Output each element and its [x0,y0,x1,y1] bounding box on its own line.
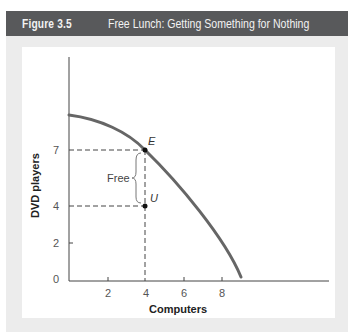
x-tick-2: 2 [105,287,111,299]
y-axis-title: DVD players [29,153,41,218]
point-u-label: U [150,192,158,204]
y-tick-7: 7 [53,144,59,156]
free-brace [132,153,141,203]
free-label: Free [107,172,130,184]
guide-lines [69,150,145,281]
x-tick-4: 4 [143,287,149,299]
y-tick-0: 0 [53,273,59,285]
point-e-label: E [148,135,156,147]
x-axis-title: Computers [149,303,207,315]
x-tick-6: 6 [181,287,187,299]
y-tick-2: 2 [53,237,59,249]
x-tick-8: 8 [219,287,225,299]
point-e [143,148,148,153]
ppf-chart: 7 4 2 0 2 4 6 8 Computers DVD players Fr… [0,0,356,336]
point-u [143,204,148,209]
y-tick-4: 4 [53,200,59,212]
x-ticks [108,277,222,281]
